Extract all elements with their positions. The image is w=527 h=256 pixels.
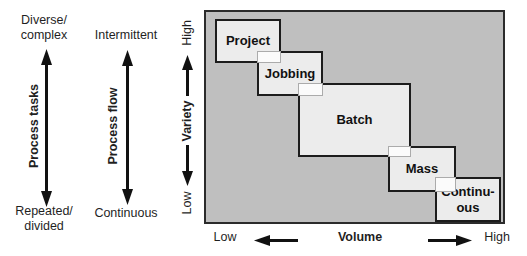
process-box-project-label: Project [226, 33, 270, 49]
process-tasks-bottom-label: Repeated/ divided [2, 204, 86, 234]
variety-high-label: High [179, 3, 195, 63]
process-flow-double-arrow-icon [121, 50, 134, 205]
overlap-jobbing-batch [298, 83, 323, 96]
process-box-batch-label: Batch [336, 112, 372, 128]
volume-right-arrow-icon [428, 234, 472, 247]
overlap-mass-continuous [435, 177, 456, 192]
process-box-jobbing-label: Jobbing [265, 66, 316, 82]
process-flow-axis-label: Process flow [105, 46, 121, 206]
volume-axis-label: Volume [318, 230, 402, 245]
overlap-batch-mass [388, 146, 411, 157]
process-flow-bottom-label: Continuous [84, 206, 168, 221]
overlap-project-jobbing [257, 51, 281, 63]
volume-high-label: High [475, 230, 519, 245]
volume-left-arrow-icon [254, 234, 298, 247]
volume-variety-chart: Project Jobbing Batch Mass Continu- ous [204, 10, 505, 224]
process-box-mass-label: Mass [406, 161, 439, 177]
process-types-figure: Diverse/ complex Process tasks Repeated/… [0, 0, 527, 256]
process-flow-top-label: Intermittent [84, 28, 168, 43]
variety-low-label: Low [179, 173, 195, 233]
process-tasks-axis-label: Process tasks [26, 46, 42, 206]
volume-low-label: Low [203, 230, 247, 245]
process-tasks-top-label: Diverse/ complex [4, 13, 84, 43]
